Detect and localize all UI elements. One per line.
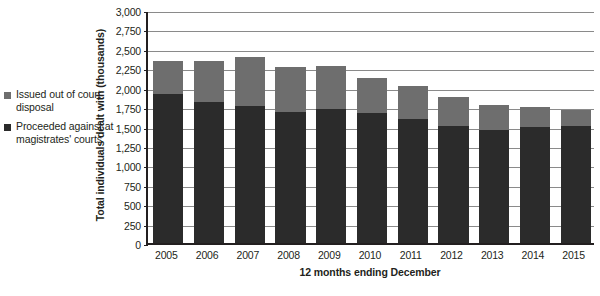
x-tick-label: 2011: [390, 249, 431, 261]
x-axis-tick-labels: 2005200620072008200920102011201220132014…: [146, 249, 594, 263]
y-tick-label: 750: [108, 182, 141, 193]
bars-container: [148, 12, 594, 243]
bar-segment-proceeded-against: [561, 126, 591, 243]
bar-segment-out-of-court-disposal: [398, 86, 428, 119]
bar-segment-proceeded-against: [275, 112, 305, 243]
bar-stack: [438, 10, 468, 243]
bar-stack: [561, 10, 591, 243]
y-tick-label: 2,250: [108, 65, 141, 76]
x-tick-label: 2006: [187, 249, 228, 261]
x-tick-label: 2005: [146, 249, 187, 261]
x-axis-title: 12 months ending December: [146, 266, 594, 278]
plot-area: [146, 12, 594, 245]
bar-segment-out-of-court-disposal: [357, 78, 387, 112]
y-axis-title: Total individuals dealt with (thousands): [94, 0, 106, 250]
bar-stack: [398, 10, 428, 243]
bar-segment-proceeded-against: [520, 127, 550, 244]
bar-segment-proceeded-against: [153, 94, 183, 243]
x-tick-label: 2007: [227, 249, 268, 261]
bar-segment-proceeded-against: [194, 102, 224, 243]
y-tick-label: 250: [108, 220, 141, 231]
bar-segment-out-of-court-disposal: [153, 61, 183, 94]
x-tick-label: 2010: [350, 249, 391, 261]
bar-segment-out-of-court-disposal: [194, 61, 224, 103]
bar-stack: [275, 10, 305, 243]
bar-stack: [479, 10, 509, 243]
x-tick-label: 2013: [472, 249, 513, 261]
y-tick-label: 1,500: [108, 123, 141, 134]
bar-stack: [153, 10, 183, 243]
bar-stack: [520, 10, 550, 243]
bar-segment-out-of-court-disposal: [479, 105, 509, 131]
y-tick-label: 2,500: [108, 46, 141, 57]
y-tickmark: [144, 245, 148, 246]
bar-segment-out-of-court-disposal: [520, 107, 550, 126]
y-tick-label: 500: [108, 201, 141, 212]
y-tick-label: 2,000: [108, 84, 141, 95]
bar-segment-proceeded-against: [398, 119, 428, 243]
bar-stack: [194, 10, 224, 243]
x-tick-label: 2009: [309, 249, 350, 261]
bar-segment-proceeded-against: [316, 109, 346, 243]
bar-segment-out-of-court-disposal: [316, 66, 346, 109]
y-tick-label: 3,000: [108, 7, 141, 18]
y-tick-label: 0: [108, 240, 141, 251]
x-tick-label: 2012: [431, 249, 472, 261]
y-tick-label: 2,750: [108, 26, 141, 37]
x-tick-label: 2008: [268, 249, 309, 261]
bar-segment-out-of-court-disposal: [561, 110, 591, 126]
x-tick-label: 2015: [553, 249, 594, 261]
x-tick-label: 2014: [513, 249, 554, 261]
bar-segment-proceeded-against: [438, 126, 468, 243]
bar-segment-out-of-court-disposal: [438, 97, 468, 126]
y-tick-label: 1,000: [108, 162, 141, 173]
y-axis-tick-labels: 02505007501,0001,2501,5001,7502,0002,250…: [108, 12, 141, 245]
legend-swatch-grey: [4, 92, 11, 99]
y-tick-label: 1,750: [108, 104, 141, 115]
bar-chart-figure: Issued out of court disposal Proceeded a…: [0, 0, 600, 296]
bar-stack: [235, 10, 265, 243]
bar-stack: [316, 10, 346, 243]
y-tick-label: 1,250: [108, 143, 141, 154]
bar-segment-out-of-court-disposal: [235, 57, 265, 107]
bar-stack: [357, 10, 387, 243]
bar-segment-out-of-court-disposal: [275, 67, 305, 111]
bar-segment-proceeded-against: [479, 130, 509, 243]
legend-swatch-dark: [4, 124, 11, 131]
bar-segment-proceeded-against: [235, 106, 265, 243]
bar-segment-proceeded-against: [357, 113, 387, 243]
